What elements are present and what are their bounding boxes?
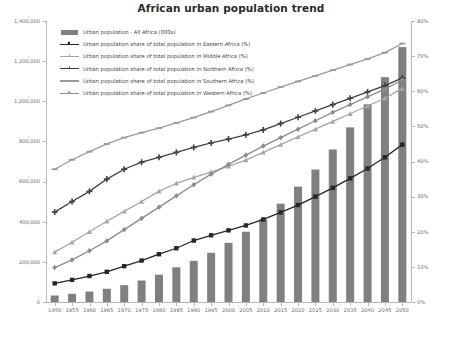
x-axis-tick-label: 1980 (152, 307, 165, 313)
bar-2030 (329, 149, 337, 302)
legend-item[interactable]: Urban population share of total populati… (60, 38, 254, 50)
x-tick (90, 303, 91, 306)
y2-axis-tick-label: 60% (417, 88, 428, 94)
legend-marker-icon (65, 64, 70, 69)
x-tick (159, 303, 160, 306)
legend-key-icon (60, 40, 79, 49)
x-axis-tick-label: 1975 (135, 307, 148, 313)
data-point (174, 246, 178, 250)
bar-2035 (346, 127, 354, 302)
data-point (226, 136, 232, 142)
x-axis-tick-label: 2030 (326, 307, 339, 313)
y-axis-tick-label: 600,000 (0, 178, 40, 184)
x-tick (229, 303, 230, 306)
data-point (70, 278, 74, 282)
x-tick (281, 303, 282, 306)
x-tick (333, 303, 334, 306)
data-point (260, 127, 266, 133)
legend-item[interactable]: Urban population - All Africa (000s) (60, 26, 254, 38)
data-point (312, 75, 318, 77)
data-point (365, 94, 370, 99)
bar-1970 (120, 285, 128, 302)
data-point (399, 43, 405, 45)
y2-axis-tick-label: 0% (417, 299, 425, 305)
data-point (295, 81, 301, 83)
legend-item[interactable]: Urban population share of total populati… (60, 50, 254, 62)
data-point (121, 166, 127, 172)
legend-key-icon (60, 76, 79, 85)
data-point (173, 122, 179, 124)
y-tick-left (43, 222, 46, 223)
data-point (69, 159, 75, 161)
x-axis-tick-label: 1965 (100, 307, 113, 313)
data-point (173, 149, 179, 155)
data-point (69, 199, 75, 205)
y-axis-tick-label: 200,000 (0, 259, 40, 265)
legend-item[interactable]: Urban population share of total populati… (60, 87, 254, 99)
legend-key-icon (60, 89, 79, 98)
bar-2045 (381, 77, 389, 302)
bar-2015 (277, 204, 285, 302)
bar-2025 (311, 170, 319, 302)
data-point (87, 274, 91, 278)
x-tick (194, 303, 195, 306)
data-point (139, 258, 143, 262)
legend-label: Urban population share of total populati… (83, 53, 248, 59)
data-point (278, 86, 284, 88)
legend-key-icon (60, 64, 79, 73)
y-tick-right (412, 197, 415, 198)
x-axis-tick-label: 1960 (83, 307, 96, 313)
y-axis-tick-label: 1,000,000 (0, 98, 40, 104)
data-point (313, 118, 318, 123)
data-point (52, 250, 57, 255)
legend-label: Urban population share of total populati… (83, 90, 252, 96)
legend-label: Urban population - All Africa (000s) (83, 29, 176, 35)
data-point (52, 265, 57, 270)
y-axis-tick-label: 800,000 (0, 138, 40, 144)
data-point (52, 281, 56, 285)
data-point (157, 252, 161, 256)
legend-key-icon (60, 28, 79, 37)
bar-1995 (207, 253, 215, 302)
data-point (313, 194, 317, 198)
data-point (260, 92, 266, 94)
x-axis-tick-label: 2035 (344, 307, 357, 313)
bar-2050 (398, 47, 406, 302)
x-axis-tick-label: 2040 (361, 307, 374, 313)
data-point (174, 193, 179, 198)
data-point (347, 64, 353, 66)
x-tick (263, 303, 264, 306)
y-tick-left (43, 302, 46, 303)
legend-item[interactable]: Urban population share of total populati… (60, 75, 254, 87)
y-axis-tick-label: 1,400,000 (0, 18, 40, 24)
x-tick (55, 303, 56, 306)
data-point (208, 111, 214, 113)
y-tick-right (412, 21, 415, 22)
x-axis-tick-label: 1955 (65, 307, 78, 313)
legend-marker-icon (65, 88, 70, 93)
legend-label: Urban population share of total populati… (83, 66, 254, 72)
data-point (383, 155, 387, 159)
legend-item[interactable]: Urban population share of total populati… (60, 63, 254, 75)
x-axis-tick-label: 1950 (48, 307, 61, 313)
chart-container: African urban population trend 0200,0004… (0, 0, 462, 337)
y-tick-right (412, 162, 415, 163)
bar-1955 (68, 294, 76, 302)
bar-2000 (225, 243, 233, 302)
data-point (87, 248, 92, 253)
x-tick (350, 303, 351, 306)
data-point (348, 176, 352, 180)
bar-2005 (242, 232, 250, 302)
data-point (139, 216, 144, 221)
data-point (243, 152, 248, 157)
data-point (295, 114, 301, 120)
y2-axis-tick-label: 10% (417, 264, 428, 270)
x-axis-tick-label: 1970 (118, 307, 131, 313)
y2-axis-tick-label: 40% (417, 158, 428, 164)
data-point (156, 127, 162, 129)
y-tick-right (412, 56, 415, 57)
data-point (296, 126, 301, 131)
data-point (52, 209, 58, 215)
data-point (191, 144, 197, 150)
x-axis-tick-label: 2050 (396, 307, 409, 313)
